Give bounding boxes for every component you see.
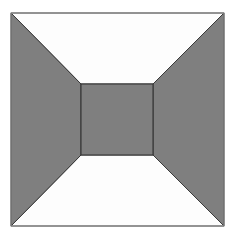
center-square — [81, 84, 153, 155]
frustum-diagram — [0, 0, 234, 236]
